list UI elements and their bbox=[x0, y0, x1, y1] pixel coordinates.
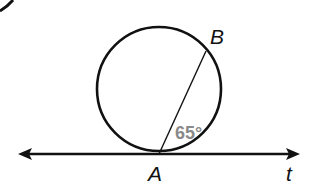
geometry-diagram: B A t 65° bbox=[0, 0, 323, 191]
corner-arc-fragment bbox=[0, 0, 13, 11]
angle-label: 65° bbox=[175, 123, 202, 143]
label-point-a: A bbox=[146, 162, 162, 185]
label-point-b: B bbox=[210, 25, 224, 48]
circle bbox=[97, 27, 221, 151]
label-line-t: t bbox=[286, 162, 293, 185]
